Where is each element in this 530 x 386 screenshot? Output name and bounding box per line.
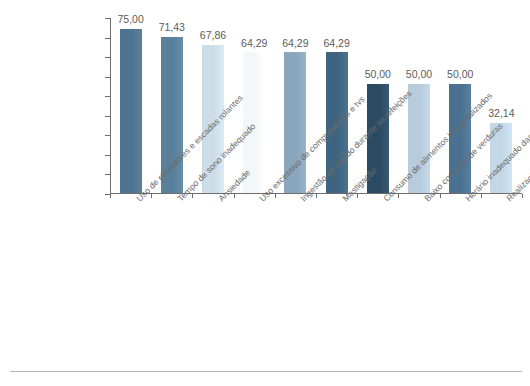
bar-value-label: 32,14 <box>488 108 514 119</box>
bar-group: 64,29 <box>243 18 265 193</box>
bar-value-label: 71,43 <box>159 22 185 33</box>
bar-value-label: 64,29 <box>241 38 267 49</box>
bar-value-label: 50,00 <box>365 69 391 80</box>
bar-value-label: 64,29 <box>323 38 349 49</box>
category-labels: Uso de elevadores e escadas rolantesTemp… <box>0 193 530 368</box>
bar-value-label: 50,00 <box>406 69 432 80</box>
bar-group: 75,00 <box>120 18 142 193</box>
bar-chart-figure: 75,0071,4367,8664,2964,2964,2950,0050,00… <box>0 0 530 386</box>
bar-value-label: 75,00 <box>117 14 143 25</box>
bar-value-label: 64,29 <box>282 38 308 49</box>
bar-value-label: 67,86 <box>200 30 226 41</box>
bar-value-label: 50,00 <box>447 69 473 80</box>
footer-divider <box>10 371 522 372</box>
bar <box>120 29 142 193</box>
